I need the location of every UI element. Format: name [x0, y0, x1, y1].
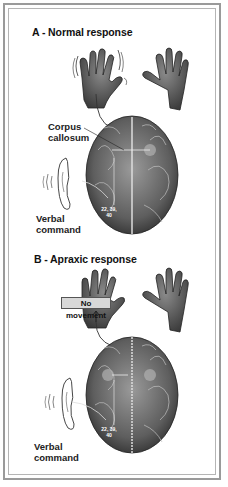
verbal-line2-b: command [34, 452, 79, 463]
corpus-callosum-line2: callosum [48, 132, 89, 143]
ear-icon-b [45, 378, 74, 429]
brain-icon-b [86, 337, 178, 453]
brodmann-areas-tag-a: 22, 39, 40 [101, 206, 117, 218]
corpus-callosum-line1: Corpus [48, 121, 89, 132]
verbal-command-label-a: Verbal command [36, 213, 81, 235]
verbal-line2-a: command [36, 224, 81, 235]
corpus-callosum-label: Corpus callosum [48, 121, 89, 143]
right-hand-icon-a [143, 48, 189, 110]
left-hand-icon-a [73, 49, 127, 108]
ear-icon-a [43, 158, 70, 209]
diagram-illustration [0, 0, 228, 487]
verbal-command-label-b: Verbal command [34, 441, 79, 463]
verbal-line1-b: Verbal [34, 441, 79, 452]
verbal-line1-a: Verbal [36, 213, 81, 224]
panel-b-title: B - Apraxic response [34, 253, 137, 265]
areas-line2-b: 40 [101, 432, 117, 438]
right-hand-icon-b [143, 268, 189, 332]
panel-a-title: A - Normal response [32, 26, 132, 38]
brodmann-areas-tag-b: 22, 39, 40 [101, 426, 117, 438]
no-movement-label: No movement [61, 297, 111, 309]
areas-line2-a: 40 [101, 212, 117, 218]
brain-icon-a [86, 116, 178, 234]
